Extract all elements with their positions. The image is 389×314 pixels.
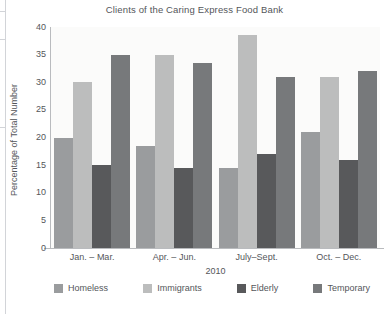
bar <box>92 165 111 248</box>
legend-item[interactable]: Immigrants <box>143 283 202 293</box>
bar <box>193 63 212 248</box>
chart-title: Clients of the Caring Express Food Bank <box>0 4 389 15</box>
bar <box>54 138 73 249</box>
legend-swatch-icon <box>237 284 246 293</box>
y-axis-tick-35: 35 <box>4 50 46 59</box>
bar <box>276 77 295 248</box>
x-axis-title: 2010 <box>51 266 380 276</box>
y-axis-tick-20: 20 <box>4 133 46 142</box>
x-axis-category-labels: Jan. – Mar.Apr. – Jun.July–Sept.Oct. – D… <box>51 252 380 262</box>
bar <box>339 160 358 248</box>
x-axis-category-label: Jan. – Mar. <box>51 252 133 262</box>
bar-groups <box>51 27 380 248</box>
bar-group <box>298 27 380 248</box>
bar <box>320 77 339 248</box>
y-axis-tick-15: 15 <box>4 161 46 170</box>
legend-swatch-icon <box>54 284 63 293</box>
legend-label: Immigrants <box>157 283 202 293</box>
bar <box>136 146 155 248</box>
bar <box>174 168 193 248</box>
y-axis-tick-5: 5 <box>4 216 46 225</box>
x-axis-category-label: Oct. – Dec. <box>298 252 380 262</box>
x-axis-line <box>44 248 384 249</box>
chart-legend: HomelessImmigrantsElderlyTemporary <box>44 283 380 293</box>
legend-item[interactable]: Elderly <box>237 283 279 293</box>
bar <box>301 132 320 248</box>
bar-group <box>133 27 215 248</box>
y-axis-tick-25: 25 <box>4 105 46 114</box>
legend-label: Elderly <box>251 283 279 293</box>
legend-item[interactable]: Temporary <box>313 283 370 293</box>
bar-group <box>51 27 133 248</box>
bar <box>219 168 238 248</box>
legend-swatch-icon <box>143 284 152 293</box>
bar <box>73 82 92 248</box>
bar-group <box>216 27 298 248</box>
y-axis-tick-10: 10 <box>4 188 46 197</box>
y-axis-tick-labels: 0510152025303540 <box>0 0 46 314</box>
bar-chart: Clients of the Caring Express Food Bank … <box>0 0 389 314</box>
bar <box>155 55 174 248</box>
x-axis-category-label: Apr. – Jun. <box>133 252 215 262</box>
y-axis-tick-30: 30 <box>4 78 46 87</box>
legend-label: Homeless <box>68 283 108 293</box>
bar <box>257 154 276 248</box>
bar <box>238 35 257 248</box>
legend-swatch-icon <box>313 284 322 293</box>
y-axis-tick-0: 0 <box>4 244 46 253</box>
legend-label: Temporary <box>327 283 370 293</box>
legend-item[interactable]: Homeless <box>54 283 108 293</box>
bar <box>111 55 130 248</box>
bar <box>358 71 377 248</box>
y-axis-tick-40: 40 <box>4 23 46 32</box>
x-axis-category-label: July–Sept. <box>216 252 298 262</box>
